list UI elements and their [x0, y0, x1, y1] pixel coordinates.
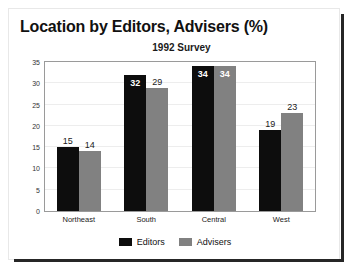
bar-group: 1923 [259, 62, 303, 211]
legend-swatch-advisers [179, 238, 192, 246]
y-tick-label: 15 [12, 144, 40, 151]
legend-label: Advisers [197, 237, 232, 247]
bars-layer: 1514322934341923 [45, 62, 315, 211]
x-tick-label-central: Central [202, 215, 226, 224]
bar-group: 3229 [124, 62, 168, 211]
y-tick-label: 35 [12, 59, 40, 66]
bar-editors-south: 32 [124, 75, 146, 211]
x-tick-label-northeast: Northeast [62, 215, 95, 224]
y-tick-label: 20 [12, 122, 40, 129]
bar-value-label: 32 [124, 78, 146, 88]
y-tick-label: 25 [12, 101, 40, 108]
bar-value-label: 19 [257, 119, 283, 129]
y-tick-label: 5 [12, 186, 40, 193]
bar-editors-west [259, 130, 281, 211]
chart-card: Location by Editors, Advisers (%) 1992 S… [8, 8, 340, 260]
bar-value-label: 34 [192, 69, 214, 79]
legend-item-advisers[interactable]: Advisers [179, 237, 232, 247]
y-tick-label: 10 [12, 165, 40, 172]
y-axis: 05101520253035 [9, 61, 40, 212]
bar-group: 1514 [57, 62, 101, 211]
x-axis: NortheastSouthCentralWest [45, 215, 315, 229]
chart-title: Location by Editors, Advisers (%) [20, 18, 268, 36]
legend-label: Editors [137, 237, 165, 247]
bar-advisers-south [146, 88, 168, 211]
x-tick-label-west: West [273, 215, 290, 224]
bar-value-label: 23 [279, 102, 305, 112]
x-tick-label-south: South [136, 215, 156, 224]
card-shadow-right [341, 14, 344, 262]
bar-advisers-northeast [79, 151, 101, 211]
chart-legend: EditorsAdvisers [9, 237, 341, 247]
bar-value-label: 14 [77, 140, 103, 150]
bar-value-label: 34 [214, 69, 236, 79]
bar-editors-central: 34 [192, 66, 214, 211]
card-shadow-bottom [14, 259, 344, 262]
bar-advisers-central: 34 [214, 66, 236, 211]
bar-editors-northeast [57, 147, 79, 211]
bar-value-label: 29 [144, 77, 170, 87]
y-tick-label: 30 [12, 80, 40, 87]
bar-advisers-west [281, 113, 303, 211]
legend-swatch-editors [119, 238, 132, 246]
chart-subtitle: 1992 Survey [44, 42, 319, 53]
y-tick-label: 0 [12, 208, 40, 215]
bar-group: 3434 [192, 62, 236, 211]
legend-item-editors[interactable]: Editors [119, 237, 165, 247]
